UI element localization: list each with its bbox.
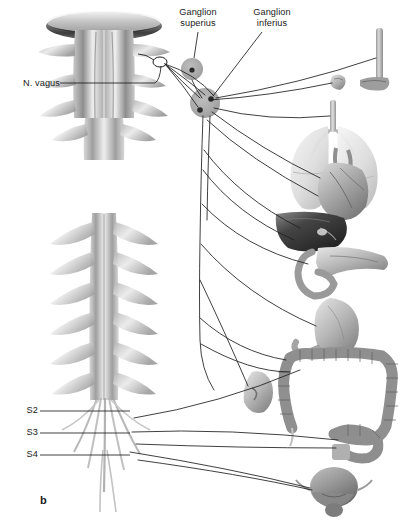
medulla-oblongata: [73, 30, 135, 118]
organ-liver: [276, 212, 347, 252]
label-ganglion-superius: Ganglion superius: [164, 7, 232, 29]
leader-ganglion-superius: [194, 32, 198, 58]
label-n-vagus: N. vagus: [2, 78, 60, 89]
label-ganglion-inferius: Ganglion inferius: [238, 7, 306, 29]
organ-kidney: [244, 371, 273, 413]
anatomical-figure: Ganglion superius Ganglion inferius N. v…: [0, 0, 409, 531]
label-s4: S4: [16, 449, 38, 460]
label-s2: S2: [16, 405, 38, 416]
organ-esophagus: [360, 28, 389, 91]
label-s3: S3: [16, 427, 38, 438]
figure-illustration: [0, 0, 409, 531]
brainstem-group: [38, 11, 170, 118]
panel-letter: b: [40, 495, 47, 506]
organ-pancreas: [298, 247, 388, 296]
cervical-cord: [52, 118, 156, 160]
organ-larynx: [330, 74, 345, 90]
organ-bladder: [296, 467, 372, 517]
leader-ganglion-inferius: [213, 32, 262, 96]
spinal-cord-group: [50, 213, 158, 512]
nerve-pathways: [130, 58, 376, 490]
